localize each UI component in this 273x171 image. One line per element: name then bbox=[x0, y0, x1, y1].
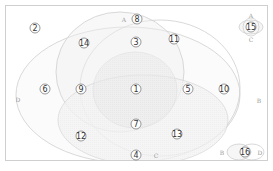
svg-text:3: 3 bbox=[133, 38, 138, 47]
svg-text:14: 14 bbox=[79, 39, 89, 48]
svg-text:6: 6 bbox=[42, 85, 47, 94]
svg-text:5: 5 bbox=[185, 85, 190, 94]
region-14: 14 bbox=[79, 38, 89, 48]
set-label-c: C bbox=[154, 152, 159, 159]
svg-text:13: 13 bbox=[172, 130, 182, 139]
region-5: 5 bbox=[183, 84, 193, 94]
svg-text:16: 16 bbox=[240, 148, 250, 157]
svg-text:2: 2 bbox=[32, 24, 37, 33]
svg-text:15: 15 bbox=[246, 23, 256, 32]
region-11: 11 bbox=[169, 34, 179, 44]
set-label-a: A bbox=[121, 16, 127, 23]
region-13: 13 bbox=[172, 129, 182, 139]
region-6: 6 bbox=[40, 84, 50, 94]
side-label-c: C bbox=[249, 36, 254, 43]
region-3: 3 bbox=[131, 37, 141, 47]
region-8: 8 bbox=[132, 14, 142, 24]
region-9: 9 bbox=[76, 84, 86, 94]
region-7: 7 bbox=[131, 119, 141, 129]
region-10: 10 bbox=[219, 84, 229, 94]
set-label-b: B bbox=[257, 97, 262, 104]
side-label-a: A bbox=[248, 12, 254, 19]
svg-text:11: 11 bbox=[169, 35, 179, 44]
region-4: 4 bbox=[131, 150, 141, 160]
region-16: 16 bbox=[240, 147, 250, 157]
venn-diagram: A B C D A C B D 1 2 3 4 5 6 7 8 9 10 11 … bbox=[0, 0, 273, 171]
svg-text:4: 4 bbox=[133, 151, 138, 160]
svg-text:8: 8 bbox=[134, 15, 139, 24]
svg-text:10: 10 bbox=[219, 85, 229, 94]
region-1: 1 bbox=[131, 84, 141, 94]
svg-text:7: 7 bbox=[133, 120, 138, 129]
region-2: 2 bbox=[30, 23, 40, 33]
set-label-d: D bbox=[16, 96, 21, 103]
side-label-b: B bbox=[220, 149, 225, 156]
svg-text:1: 1 bbox=[133, 85, 138, 94]
svg-text:12: 12 bbox=[76, 132, 86, 141]
region-15: 15 bbox=[246, 22, 256, 32]
region-12: 12 bbox=[76, 131, 86, 141]
svg-text:9: 9 bbox=[78, 85, 83, 94]
side-label-d: D bbox=[258, 149, 263, 156]
